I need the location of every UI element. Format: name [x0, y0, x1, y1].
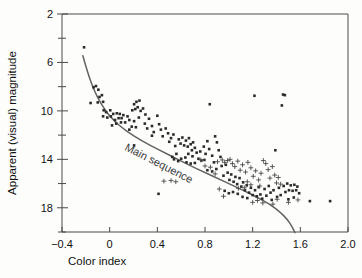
star-data-point [206, 169, 209, 172]
star-data-point-cross [246, 160, 251, 165]
star-data-point [220, 165, 223, 168]
star-data-point [295, 189, 298, 192]
star-data-point [83, 46, 86, 49]
star-data-point [292, 196, 295, 199]
star-data-point [111, 124, 114, 127]
hr-diagram-figure: −0.400.40.81.21.62.0 26101418 Main seque… [0, 0, 362, 278]
star-data-point [270, 199, 273, 202]
star-data-point [179, 142, 182, 145]
star-data-point-cross [286, 200, 291, 205]
star-data-point [282, 185, 285, 188]
star-data-point [187, 153, 190, 156]
star-data-point [156, 114, 159, 117]
star-data-point-cross [256, 178, 261, 183]
star-data-point [170, 137, 173, 140]
star-data-point [293, 183, 296, 186]
star-data-point [248, 191, 251, 194]
star-data-point [203, 145, 206, 148]
star-data-point [92, 86, 95, 89]
star-data-point [296, 185, 299, 188]
x-axis-title: Color index [68, 255, 126, 267]
star-data-point [181, 136, 184, 139]
star-data-point [138, 116, 141, 119]
x-tick-label: 0.8 [197, 238, 212, 250]
star-data-point-cross [251, 174, 256, 179]
y-axis-title: Apparent (visual) magnitude [6, 51, 18, 195]
star-data-point-cross [270, 164, 275, 169]
star-data-point [168, 140, 171, 143]
star-data-point [185, 139, 188, 142]
star-data-point [174, 145, 177, 148]
star-data-point [228, 179, 231, 182]
star-data-point [232, 180, 235, 183]
star-data-point [139, 110, 142, 113]
star-data-point [234, 176, 237, 179]
main-sequence-curve [83, 56, 295, 233]
star-data-point-cross [238, 168, 243, 173]
star-data-point [208, 148, 211, 151]
x-tick-label: 1.2 [245, 238, 260, 250]
y-tick-label: 18 [41, 202, 53, 214]
star-data-point [192, 141, 195, 144]
y-tick-label: 14 [41, 153, 53, 165]
star-data-point [102, 115, 105, 118]
star-data-point [97, 88, 100, 91]
star-data-point [102, 109, 105, 112]
scatter-plot-canvas: −0.400.40.81.21.62.0 26101418 Main seque… [0, 0, 362, 278]
star-data-point [138, 99, 141, 102]
star-data-point-cross [248, 182, 253, 187]
star-data-point [191, 155, 194, 158]
data-points-plus [161, 157, 300, 207]
star-data-point [211, 154, 214, 157]
star-data-point [102, 101, 105, 104]
star-data-point [112, 113, 115, 116]
star-data-point [114, 119, 117, 122]
star-data-point [122, 114, 125, 117]
star-data-point [133, 103, 136, 106]
star-data-point [115, 122, 118, 125]
star-data-point [204, 153, 207, 156]
star-data-point-cross [263, 161, 268, 166]
star-data-point [223, 190, 226, 193]
star-data-point [101, 94, 104, 97]
star-data-point [267, 185, 270, 188]
star-data-point-cross [268, 176, 273, 181]
x-tick-label: 0.4 [150, 238, 165, 250]
star-data-point [175, 153, 178, 156]
star-data-point [195, 151, 198, 154]
star-data-point [232, 191, 235, 194]
star-data-point [254, 189, 257, 192]
star-data-point [206, 140, 209, 143]
star-data-point [161, 135, 164, 138]
star-data-point [120, 121, 123, 124]
star-data-point [119, 113, 122, 116]
star-data-point [236, 193, 239, 196]
star-data-point [228, 192, 231, 195]
star-data-point-cross [215, 159, 220, 164]
star-data-point [183, 144, 186, 147]
star-data-point [269, 191, 272, 194]
star-data-point [152, 131, 155, 134]
star-data-point [238, 177, 241, 180]
star-data-point [189, 143, 192, 146]
star-data-point-cross [203, 164, 208, 169]
star-data-point [272, 189, 275, 192]
star-data-point-cross [253, 168, 258, 173]
star-data-point-cross [173, 179, 178, 184]
star-data-point [219, 156, 222, 159]
star-data-point [116, 112, 119, 115]
star-data-point [259, 193, 262, 196]
plot-frame [62, 14, 348, 232]
star-data-point [213, 161, 216, 164]
star-data-point [256, 195, 259, 198]
star-data-point-cross [276, 175, 281, 180]
star-data-point [288, 189, 291, 192]
star-data-point [133, 120, 136, 123]
star-data-point-cross [230, 161, 235, 166]
star-data-point [134, 108, 137, 111]
star-data-point [226, 171, 229, 174]
star-data-point [199, 150, 202, 153]
star-data-point [236, 183, 239, 186]
star-data-point [242, 181, 245, 184]
star-data-point [131, 109, 134, 112]
